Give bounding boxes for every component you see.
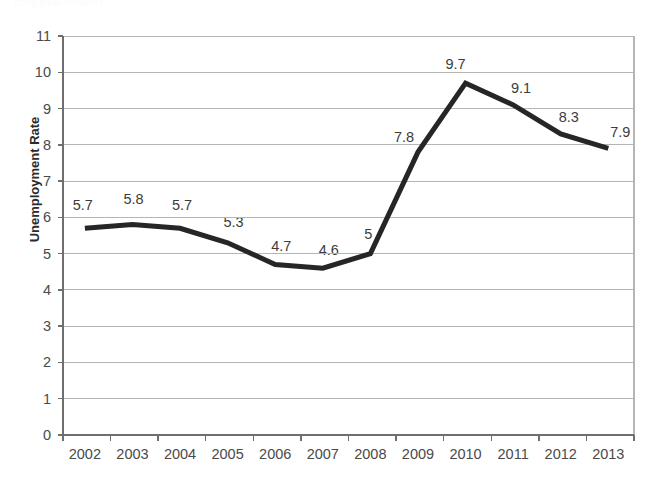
- axis-ticks: [58, 36, 634, 441]
- unemployment-rate-line-chart: cropped-header Unemployment Rate 1110987…: [0, 0, 647, 479]
- axis-lines: [63, 36, 634, 435]
- series-line: [85, 83, 608, 268]
- gridlines: [63, 36, 634, 435]
- plot-area: [0, 0, 647, 479]
